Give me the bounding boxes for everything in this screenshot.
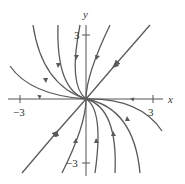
- y-tick-label-neg3: −3: [66, 157, 78, 169]
- y-tick-label-3: 3: [74, 29, 80, 41]
- x-tick-label-3: 3: [148, 106, 154, 118]
- trajectory-straight-upper: [116, 25, 150, 64]
- arrow-icon: [56, 63, 61, 68]
- arrow-icon: [125, 116, 130, 121]
- arrow-icon: [112, 62, 119, 68]
- y-axis-label: y: [82, 8, 88, 20]
- trajectory-straight-upper-rest: [86, 64, 116, 99]
- x-tick-label-neg3: −3: [13, 106, 25, 118]
- trajectory-lr-4: [86, 99, 98, 173]
- trajectory-straight-lower: [22, 133, 56, 173]
- trajectory-ul-5: [86, 25, 110, 99]
- phase-portrait: x y −3 3 3 −3: [0, 0, 185, 184]
- x-axis-label: x: [167, 93, 173, 105]
- arrow-icon: [43, 78, 48, 83]
- trajectory-ul-3: [58, 25, 86, 99]
